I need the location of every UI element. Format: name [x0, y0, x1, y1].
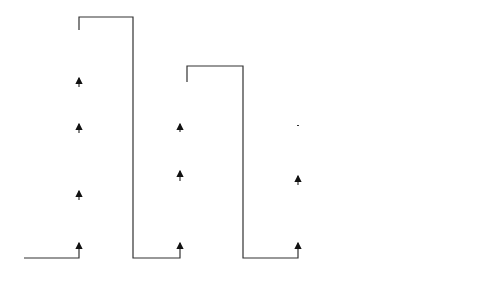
connector-lines — [0, 0, 494, 297]
